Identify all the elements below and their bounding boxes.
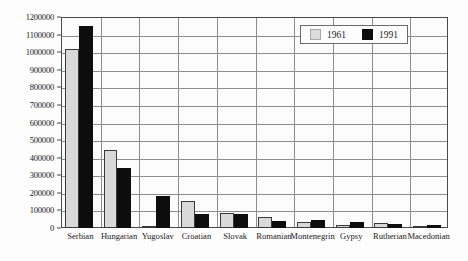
bar-montenegrin-1991 [311, 220, 325, 228]
y-tick-label: 200000 [30, 188, 54, 198]
bar-yugoslav-1961 [142, 226, 156, 228]
bar-romanian-1961 [258, 217, 272, 228]
bar-slovak-1991 [234, 214, 248, 228]
y-tick-label: 1000000 [26, 47, 54, 57]
bar-slovak-1961 [220, 213, 234, 228]
y-tick-label: 0 [50, 223, 54, 233]
y-axis: 1200000110000010000009000008000007000006… [0, 0, 57, 261]
bar-serbian-1961 [65, 49, 79, 228]
bar-group [293, 17, 332, 228]
y-tick-label: 1100000 [26, 30, 54, 40]
bar-group [409, 17, 448, 228]
x-tick-label: Yugoslav [142, 231, 174, 241]
bar-yugoslav-1991 [156, 196, 170, 228]
x-tick-label: Montenegrin [290, 231, 334, 241]
legend-swatch-1961-icon [310, 29, 321, 40]
bar-group [100, 17, 139, 228]
y-tick-label: 600000 [30, 118, 54, 128]
bar-macedonian-1961 [413, 226, 427, 228]
bar-serbian-1991 [79, 26, 93, 228]
legend-label-1961: 1961 [327, 30, 346, 40]
y-tick-label: 1200000 [26, 12, 54, 22]
x-tick-label: Macedonian [407, 231, 449, 241]
bar-group [255, 17, 294, 228]
y-tick-label: 300000 [30, 170, 54, 180]
x-tick-label: Croatian [182, 231, 212, 241]
bar-group [371, 17, 410, 228]
bars-layer [61, 17, 448, 228]
y-tick-label: 500000 [30, 135, 54, 145]
bar-hungarian-1991 [117, 168, 131, 228]
x-tick-label: Serbian [67, 231, 93, 241]
legend-entry-1991: 1991 [362, 29, 398, 40]
x-tick-label: Rutherian [373, 231, 407, 241]
y-tick-label: 700000 [30, 100, 54, 110]
bar-gypsy-1961 [336, 225, 350, 228]
x-tick-label: Slovak [223, 231, 247, 241]
bar-chart: 1200000110000010000009000008000007000006… [0, 0, 468, 261]
y-tick-label: 900000 [30, 65, 54, 75]
bar-group [138, 17, 177, 228]
legend-swatch-1991-icon [362, 29, 373, 40]
y-tick-label: 100000 [30, 205, 54, 215]
bar-croatian-1961 [181, 201, 195, 228]
x-axis: SerbianHungarianYugoslavCroatianSlovakRo… [61, 231, 448, 253]
bar-macedonian-1991 [427, 225, 441, 228]
y-tick-label: 800000 [30, 82, 54, 92]
bar-group [61, 17, 100, 228]
bar-group [177, 17, 216, 228]
x-tick-label: Hungarian [101, 231, 137, 241]
chart-legend: 1961 1991 [300, 25, 408, 44]
bar-rutherian-1991 [388, 224, 402, 228]
y-tick-label: 400000 [30, 153, 54, 163]
bar-croatian-1991 [195, 214, 209, 228]
bar-hungarian-1961 [104, 150, 118, 228]
bar-montenegrin-1961 [297, 222, 311, 228]
x-tick-label: Romanian [256, 231, 291, 241]
bar-group [216, 17, 255, 228]
x-tick-label: Gypsy [340, 231, 362, 241]
bar-group [332, 17, 371, 228]
bar-rutherian-1961 [374, 223, 388, 228]
bar-romanian-1991 [272, 221, 286, 228]
legend-label-1991: 1991 [379, 30, 398, 40]
legend-entry-1961: 1961 [310, 29, 346, 40]
bar-gypsy-1991 [350, 222, 364, 228]
